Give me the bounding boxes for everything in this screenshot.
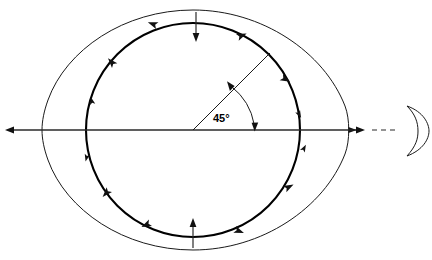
crescent-moon <box>407 106 429 156</box>
angle-radius-line <box>193 53 270 130</box>
axis-left-arrowhead <box>5 127 14 134</box>
angle-label: 45° <box>213 112 230 124</box>
top-compression-arrow <box>193 12 200 42</box>
angle-arc <box>227 81 258 131</box>
flow-arrow-group-upper-right <box>236 30 304 119</box>
axis-right-arrowhead <box>356 127 365 134</box>
tidal-diagram-root: 45° <box>0 0 432 260</box>
tidal-diagram-svg: 45° <box>0 0 432 260</box>
earth-moon-axis <box>5 127 398 134</box>
bottom-compression-arrow <box>190 218 197 248</box>
flow-arrow-group-upper-left <box>88 19 158 105</box>
